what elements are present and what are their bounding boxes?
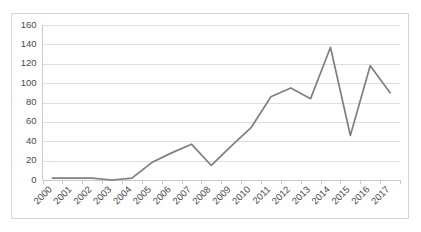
- y-axis-tick-label: 60: [26, 115, 37, 126]
- y-axis-tick-label: 40: [26, 135, 37, 146]
- y-axis-tick-label: 160: [21, 19, 37, 30]
- gridlines: [43, 26, 401, 181]
- x-axis-tick-label: 2013: [289, 184, 312, 207]
- y-axis-tick-labels: 020406080100120140160: [21, 19, 37, 185]
- x-axis-tick-label: 2008: [190, 184, 213, 207]
- x-axis-tick-label: 2009: [210, 184, 233, 207]
- x-axis-tick-label: 2010: [230, 184, 253, 207]
- x-axis-tick-label: 2007: [170, 184, 193, 207]
- x-axis-tick-label: 2001: [51, 184, 74, 207]
- x-axis-tick-label: 2012: [269, 184, 292, 207]
- x-axis-tick-labels: 2000200120022003200420052006200720082009…: [31, 184, 391, 207]
- y-axis-tick-label: 140: [21, 38, 37, 49]
- y-axis-tick-label: 0: [31, 174, 36, 185]
- x-axis-tick-label: 2011: [250, 184, 272, 206]
- x-axis-tick-label: 2017: [369, 184, 392, 207]
- x-axis-tick-label: 2000: [31, 184, 54, 207]
- x-axis-tick-label: 2015: [329, 184, 352, 207]
- x-axis-tick-label: 2003: [91, 184, 114, 207]
- x-axis-tick-label: 2002: [71, 184, 94, 207]
- x-axis-tick-label: 2005: [130, 184, 153, 207]
- x-axis-tick-label: 2014: [309, 184, 332, 207]
- y-axis-tick-label: 120: [21, 57, 37, 68]
- x-axis-tick-label: 2004: [111, 184, 134, 207]
- line-chart: 020406080100120140160 200020012002200320…: [0, 0, 421, 232]
- y-axis-tick-label: 100: [21, 77, 37, 88]
- x-axis-tick-label: 2006: [150, 184, 173, 207]
- data-series-line: [52, 47, 390, 180]
- y-axis-tick-label: 20: [26, 154, 37, 165]
- y-axis-tick-label: 80: [26, 96, 37, 107]
- x-axis-tick-label: 2016: [349, 184, 372, 207]
